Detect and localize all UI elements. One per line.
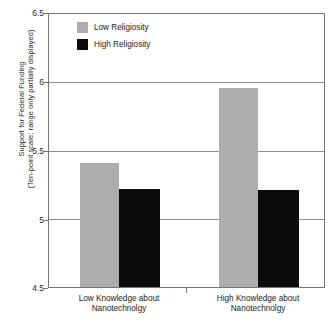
x-axis-label-low-knowledge-line-2: Nanotechnolgy [54,304,184,314]
x-axis-label-high-knowledge-line-2: Nanotechnolgy [193,304,323,314]
x-axis-label-low-knowledge-line-1: Low Knowledge about [54,294,184,304]
bar-high-knowledge-low-religiosity [219,88,258,287]
gridline-6 [49,82,324,83]
y-tickmark-4-5 [43,288,48,289]
x-axis-group-divider-tick [186,288,187,293]
bar-high-knowledge-high-religiosity [258,190,299,287]
x-axis-label-high-knowledge: High Knowledge about Nanotechnolgy [193,294,323,315]
legend-label-high-religiosity: High Religiosity [94,40,150,49]
gridline-5-5 [49,151,324,152]
legend-swatch-icon-low-religiosity [77,22,88,33]
bar-low-knowledge-high-religiosity [119,189,160,287]
x-axis-label-low-knowledge: Low Knowledge about Nanotechnolgy [54,294,184,315]
bar-chart: Support for Federal Funding (Ten-point s… [0,0,335,326]
legend-swatch-icon-high-religiosity [77,39,88,50]
legend-label-low-religiosity: Low Religiosity [94,23,149,32]
y-tick-label-5: 5 [22,215,44,225]
legend: Low Religiosity High Religiosity [77,22,150,50]
y-axis-tick-labels: 6.5 6 5.5 5 4.5 [20,0,44,326]
y-tick-label-5-5: 5.5 [22,146,44,156]
legend-item-low-religiosity: Low Religiosity [77,22,150,33]
y-tick-label-6-5: 6.5 [22,8,44,18]
plot-area [48,13,325,288]
legend-item-high-religiosity: High Religiosity [77,39,150,50]
x-axis-label-high-knowledge-line-1: High Knowledge about [193,294,323,304]
y-tick-label-6: 6 [22,77,44,87]
bar-low-knowledge-low-religiosity [80,163,119,287]
y-tick-label-4-5: 4.5 [22,283,44,293]
